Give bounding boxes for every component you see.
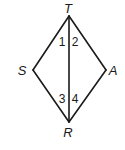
vertex-label-R: R	[63, 125, 72, 140]
angle-label-4: 4	[72, 92, 79, 106]
angle-label-3: 3	[59, 92, 66, 106]
angle-label-1: 1	[59, 35, 66, 49]
vertex-label-T: T	[64, 1, 73, 16]
kite-diagram: T S A R 1 2 3 4	[0, 0, 125, 150]
angle-label-2: 2	[72, 35, 79, 49]
vertex-label-S: S	[18, 63, 27, 78]
vertex-label-A: A	[108, 63, 118, 78]
